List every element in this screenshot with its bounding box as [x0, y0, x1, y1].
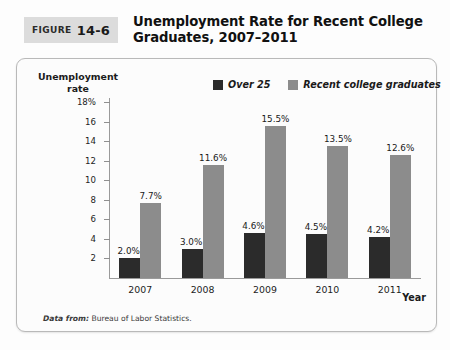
bar[interactable]: 12.6% — [390, 155, 411, 278]
bar[interactable]: 7.7% — [140, 203, 161, 278]
legend-label: Recent college graduates — [303, 79, 441, 90]
x-axis-category-label: 2009 — [253, 284, 277, 295]
bar-value-label: 13.5% — [324, 134, 352, 144]
y-axis-tick: 16 — [104, 122, 110, 123]
y-axis-tick-label: 12 — [85, 156, 96, 166]
y-axis-tick-label: 16 — [85, 117, 96, 127]
chart-panel: Unemployment rate Year Over 25Recent col… — [16, 58, 437, 332]
y-axis-tick-label: 10 — [85, 175, 96, 185]
x-axis-category-label: 2007 — [128, 284, 152, 295]
y-axis-tick-label: 8 — [91, 195, 96, 205]
y-axis-tick-label: 2 — [91, 253, 96, 263]
bar-value-label: 12.6% — [386, 143, 414, 153]
bar[interactable]: 4.2% — [369, 237, 390, 278]
source-note-text: Bureau of Labor Statistics. — [91, 314, 191, 323]
y-axis-tick-label: 6 — [91, 214, 96, 224]
bar-value-label: 2.0% — [118, 246, 140, 256]
chart-legend: Over 25Recent college graduates — [213, 79, 441, 90]
figure-title: Unemployment Rate for Recent College Gra… — [133, 14, 433, 46]
figure-container: FIGURE 14-6 Unemployment Rate for Recent… — [0, 0, 450, 350]
plot-area: 18%161412108642 2.0%7.7%20073.0%11.6%200… — [109, 103, 421, 279]
legend-label: Over 25 — [228, 79, 270, 90]
legend-item[interactable]: Over 25 — [213, 79, 270, 90]
figure-number-badge: FIGURE 14-6 — [24, 17, 118, 43]
bar-value-label: 4.5% — [305, 222, 327, 232]
x-axis-line — [109, 278, 421, 279]
bar-value-label: 11.6% — [199, 153, 227, 163]
bar[interactable]: 2.0% — [119, 258, 140, 278]
x-axis-category-label: 2010 — [315, 284, 339, 295]
y-axis-tick: 10 — [104, 180, 110, 181]
x-axis-category-label: 2008 — [191, 284, 215, 295]
y-axis-tick-label: 18% — [77, 97, 96, 107]
legend-swatch-icon — [288, 80, 298, 90]
y-axis-tick-label: 14 — [85, 136, 96, 146]
bar-group: 4.6%15.5%2009 — [234, 126, 296, 278]
legend-swatch-icon — [213, 80, 223, 90]
bar[interactable]: 13.5% — [327, 146, 348, 278]
source-note-prefix: Data from: — [43, 314, 89, 323]
y-axis-tick: 8 — [104, 200, 110, 201]
y-axis-tick: 18% — [104, 102, 110, 103]
legend-item[interactable]: Recent college graduates — [288, 79, 441, 90]
bar-value-label: 4.6% — [242, 221, 264, 231]
bar[interactable]: 4.6% — [244, 233, 265, 278]
figure-badge-word: FIGURE — [32, 25, 72, 35]
bar[interactable]: 3.0% — [182, 249, 203, 278]
bar-group: 4.5%13.5%2010 — [296, 146, 358, 278]
bar-group: 2.0%7.7%2007 — [109, 203, 171, 278]
x-axis-title: Year — [402, 292, 426, 303]
bar-group: 4.2%12.6%2011 — [359, 155, 421, 278]
bar-value-label: 4.2% — [367, 225, 389, 235]
bar-group: 3.0%11.6%2008 — [171, 165, 233, 278]
x-axis-category-label: 2011 — [378, 284, 402, 295]
bar-value-label: 7.7% — [140, 191, 162, 201]
y-axis-title: Unemployment rate — [35, 71, 121, 94]
y-axis-tick: 14 — [104, 141, 110, 142]
y-axis-tick-label: 4 — [91, 234, 96, 244]
bar-value-label: 3.0% — [180, 237, 202, 247]
bar[interactable]: 15.5% — [265, 126, 286, 278]
source-note: Data from: Bureau of Labor Statistics. — [43, 314, 192, 323]
bar[interactable]: 11.6% — [203, 165, 224, 278]
bar-value-label: 15.5% — [262, 114, 290, 124]
figure-badge-number: 14-6 — [77, 23, 110, 38]
y-axis-tick: 12 — [104, 161, 110, 162]
bar[interactable]: 4.5% — [306, 234, 327, 278]
